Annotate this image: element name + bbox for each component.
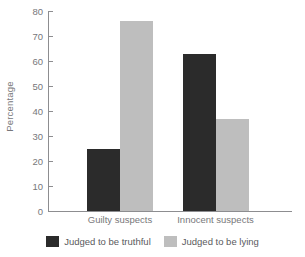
bar [120, 21, 153, 211]
legend-item[interactable]: Judged to be truthful [46, 236, 151, 247]
y-axis-tick [48, 36, 53, 37]
bar-group [87, 11, 153, 211]
y-axis-tick [48, 186, 53, 187]
legend-swatch-icon [46, 236, 59, 247]
bar [183, 54, 216, 212]
y-axis-tick-label: 0 [6, 206, 48, 217]
y-axis-tick-label: 50 [6, 81, 48, 92]
y-axis-tick-label: 20 [6, 156, 48, 167]
y-axis-tick-label: 60 [6, 56, 48, 67]
legend-swatch-icon [164, 236, 177, 247]
x-axis-tick-labels: Guilty suspectsInnocent suspects [48, 214, 292, 232]
x-axis-tick-label: Innocent suspects [177, 214, 254, 225]
y-axis-tick [48, 11, 53, 12]
y-axis-tick-labels: 01020304050607080 [0, 0, 48, 257]
y-axis-tick-label: 30 [6, 131, 48, 142]
bar-group [183, 11, 249, 211]
chart-legend: Judged to be truthfulJudged to be lying [0, 236, 305, 247]
legend-item[interactable]: Judged to be lying [164, 236, 259, 247]
y-axis-tick-label: 40 [6, 106, 48, 117]
y-axis-tick [48, 86, 53, 87]
y-axis-tick [48, 111, 53, 112]
bar [87, 149, 120, 212]
x-axis-line [48, 211, 292, 212]
y-axis-tick-label: 10 [6, 181, 48, 192]
y-axis-tick [48, 136, 53, 137]
y-axis-tick-label: 80 [6, 6, 48, 17]
legend-label: Judged to be truthful [64, 236, 151, 247]
y-axis-tick [48, 161, 53, 162]
bars-layer [48, 11, 292, 211]
y-axis-tick [48, 211, 53, 212]
y-axis-tick-label: 70 [6, 31, 48, 42]
legend-label: Judged to be lying [182, 236, 259, 247]
y-axis-tick [48, 61, 53, 62]
bar-chart: Percentage 01020304050607080 Guilty susp… [0, 0, 305, 257]
bar [216, 119, 249, 212]
x-axis-tick-label: Guilty suspects [88, 214, 152, 225]
